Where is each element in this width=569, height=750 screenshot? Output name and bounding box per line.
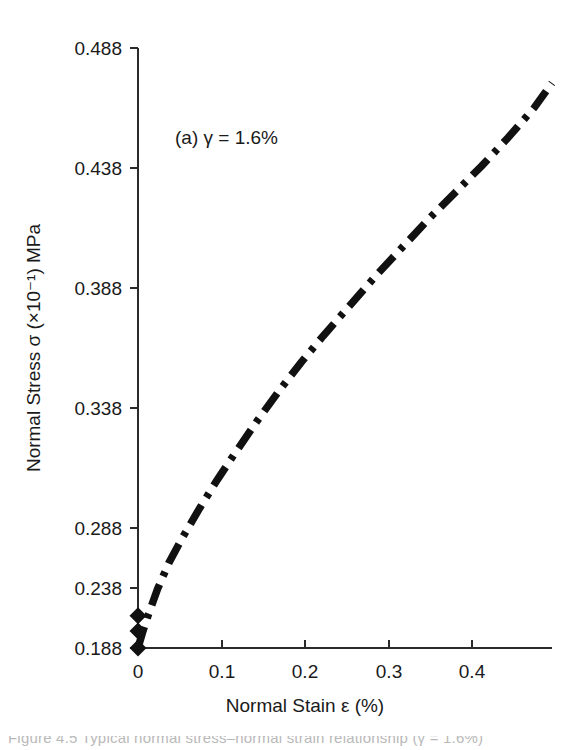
figure-caption-text: Figure 4.5 Typical normal stress–normal …: [0, 736, 483, 746]
origin-data-markers: [130, 607, 147, 656]
x-axis-tick-labels: 0 0.1 0.2 0.3 0.4: [133, 661, 486, 682]
figure-caption-fragment: Figure 4.5 Typical normal stress–normal …: [0, 736, 569, 750]
y-axis-ticks: [130, 48, 138, 648]
x-axis-title: Normal Stain ε (%): [226, 695, 384, 716]
y-tick-label: 0.488: [74, 38, 122, 59]
y-tick-label: 0.288: [74, 518, 122, 539]
x-tick-label: 0.4: [459, 661, 486, 682]
figure-container: 0.488 0.438 0.388 0.338 0.288 0.238 0.18…: [0, 0, 569, 750]
x-tick-label: 0.3: [376, 661, 402, 682]
y-tick-label: 0.338: [74, 398, 122, 419]
y-tick-label: 0.438: [74, 158, 122, 179]
data-series-line: [138, 83, 552, 648]
x-tick-label: 0: [133, 661, 144, 682]
y-tick-label: 0.188: [74, 638, 122, 659]
x-axis-ticks: [138, 640, 472, 648]
data-marker: [130, 607, 147, 624]
y-axis-tick-labels: 0.488 0.438 0.388 0.338 0.288 0.238 0.18…: [74, 38, 122, 659]
plot-annotation: (a) γ = 1.6%: [175, 127, 278, 148]
y-tick-label: 0.388: [74, 278, 122, 299]
y-axis-title: Normal Stress σ (×10⁻¹) MPa: [23, 223, 44, 472]
data-marker: [130, 640, 147, 657]
x-tick-label: 0.2: [292, 661, 318, 682]
y-tick-label: 0.238: [74, 578, 122, 599]
x-tick-label: 0.1: [209, 661, 235, 682]
stress-strain-chart: 0.488 0.438 0.388 0.338 0.288 0.238 0.18…: [0, 0, 569, 750]
